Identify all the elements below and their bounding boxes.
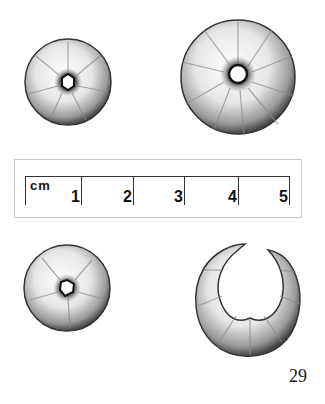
foraminifera-large-ring-icon — [181, 20, 295, 134]
scale-tick-4 — [238, 176, 239, 205]
scale-label-5: 5 — [268, 188, 288, 206]
scale-tick-1 — [81, 176, 82, 205]
scale-label-4: 4 — [217, 188, 237, 206]
scale-unit-label: cm — [30, 178, 51, 193]
page-number: 29 — [289, 366, 307, 387]
scale-label-1: 1 — [60, 188, 80, 206]
foraminifera-ring-icon — [25, 39, 111, 125]
scale-label-2: 2 — [112, 188, 132, 206]
scale-tick-5 — [289, 176, 290, 205]
foraminifera-ring-icon — [24, 245, 110, 331]
scale-tick-2 — [133, 176, 134, 205]
scale-tick-3 — [184, 176, 185, 205]
foraminifera-open-ring-icon — [196, 244, 300, 356]
scale-label-3: 3 — [163, 188, 183, 206]
